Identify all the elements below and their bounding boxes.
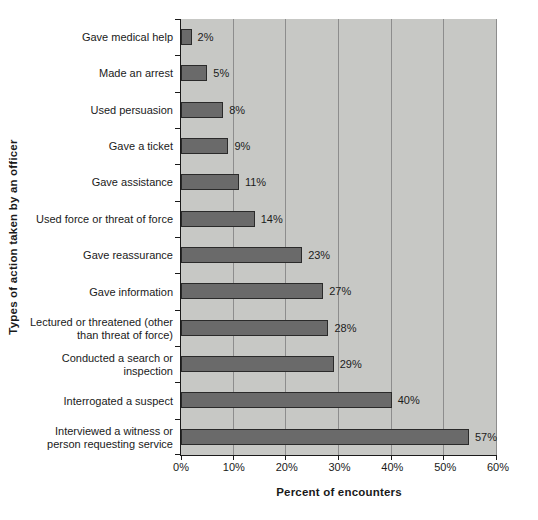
category-label: Made an arrest bbox=[20, 55, 173, 91]
y-axis-tick bbox=[175, 164, 180, 165]
x-axis-tick bbox=[443, 456, 444, 460]
bar bbox=[181, 65, 207, 81]
bar bbox=[181, 320, 328, 336]
x-axis-tick bbox=[338, 456, 339, 460]
bar-value-label: 27% bbox=[329, 285, 351, 297]
y-axis-tick bbox=[175, 454, 180, 455]
bar bbox=[181, 247, 302, 263]
bar bbox=[181, 211, 255, 227]
bar-row: 5% bbox=[181, 55, 497, 91]
y-axis-tick bbox=[175, 273, 180, 274]
y-axis-tick bbox=[175, 419, 180, 420]
category-label: Gave medical help bbox=[20, 19, 173, 55]
category-label: Interrogated a suspect bbox=[20, 383, 173, 419]
category-label: Used persuasion bbox=[20, 92, 173, 128]
x-axis-tick-label: 0% bbox=[173, 461, 189, 473]
bar bbox=[181, 392, 392, 408]
bar bbox=[181, 29, 192, 45]
bar-value-label: 11% bbox=[245, 176, 266, 188]
category-label: Used force or threat of force bbox=[20, 201, 173, 237]
y-axis-tick bbox=[175, 310, 180, 311]
bar-row: 14% bbox=[181, 201, 497, 237]
bar-row: 29% bbox=[181, 346, 497, 382]
category-label: Interviewed a witness or person requesti… bbox=[20, 420, 173, 456]
x-axis-title: Percent of encounters bbox=[180, 486, 498, 498]
bar bbox=[181, 356, 334, 372]
bar-row: 8% bbox=[181, 92, 497, 128]
x-axis-tick-label: 20% bbox=[276, 461, 298, 473]
bar-value-label: 40% bbox=[398, 394, 420, 406]
bar-row: 27% bbox=[181, 273, 497, 309]
bar-value-label: 23% bbox=[308, 249, 330, 261]
x-axis-tick-labels: 0%10%20%30%40%50%60% bbox=[181, 461, 498, 475]
x-axis-tick bbox=[496, 456, 497, 460]
y-axis-tick bbox=[175, 201, 180, 202]
category-label: Lectured or threatened (other than threa… bbox=[20, 310, 173, 346]
bar-row: 2% bbox=[181, 19, 497, 55]
bar-row: 9% bbox=[181, 128, 497, 164]
bar-value-label: 57% bbox=[475, 431, 497, 443]
bar bbox=[181, 429, 469, 445]
bar-row: 57% bbox=[181, 419, 497, 455]
x-axis-tick-label: 60% bbox=[487, 461, 509, 473]
x-axis-tick-label: 10% bbox=[223, 461, 245, 473]
y-axis-tick bbox=[175, 19, 180, 20]
y-axis-title: Types of action taken by an officer bbox=[7, 139, 19, 334]
bar-value-label: 2% bbox=[198, 31, 214, 43]
bar-value-label: 9% bbox=[234, 140, 250, 152]
bar-row: 28% bbox=[181, 310, 497, 346]
bar-value-label: 28% bbox=[334, 322, 356, 334]
bar-value-label: 29% bbox=[340, 358, 362, 370]
bar bbox=[181, 283, 323, 299]
bar-value-label: 8% bbox=[229, 104, 245, 116]
y-axis-tick bbox=[175, 346, 180, 347]
category-label: Gave reassurance bbox=[20, 238, 173, 274]
category-axis-labels: Gave medical helpMade an arrestUsed pers… bbox=[20, 19, 173, 456]
plot-area: 2%5%8%9%11%14%23%27%28%29%40%57% bbox=[180, 19, 497, 456]
x-axis-tick bbox=[181, 456, 182, 460]
bar-row: 40% bbox=[181, 382, 497, 418]
category-label: Conducted a search or inspection bbox=[20, 347, 173, 383]
bar bbox=[181, 138, 228, 154]
y-axis-tick bbox=[175, 128, 180, 129]
bar bbox=[181, 102, 223, 118]
x-axis-tick bbox=[233, 456, 234, 460]
y-axis-tick bbox=[175, 237, 180, 238]
x-axis-tick-label: 50% bbox=[434, 461, 456, 473]
y-axis-tick bbox=[175, 382, 180, 383]
x-axis-tick-label: 40% bbox=[381, 461, 403, 473]
bar-value-label: 5% bbox=[213, 67, 229, 79]
bar-chart-figure: Types of action taken by an officer Gave… bbox=[0, 0, 538, 520]
category-label: Gave a ticket bbox=[20, 128, 173, 164]
x-axis-tick bbox=[285, 456, 286, 460]
y-axis-tick bbox=[175, 92, 180, 93]
bar-row: 11% bbox=[181, 164, 497, 200]
y-axis-tick bbox=[175, 55, 180, 56]
bar-value-label: 14% bbox=[261, 213, 283, 225]
x-axis-tick-label: 30% bbox=[328, 461, 350, 473]
category-label: Gave information bbox=[20, 274, 173, 310]
bar-row: 23% bbox=[181, 237, 497, 273]
category-label: Gave assistance bbox=[20, 165, 173, 201]
x-axis-tick bbox=[391, 456, 392, 460]
bar bbox=[181, 174, 239, 190]
